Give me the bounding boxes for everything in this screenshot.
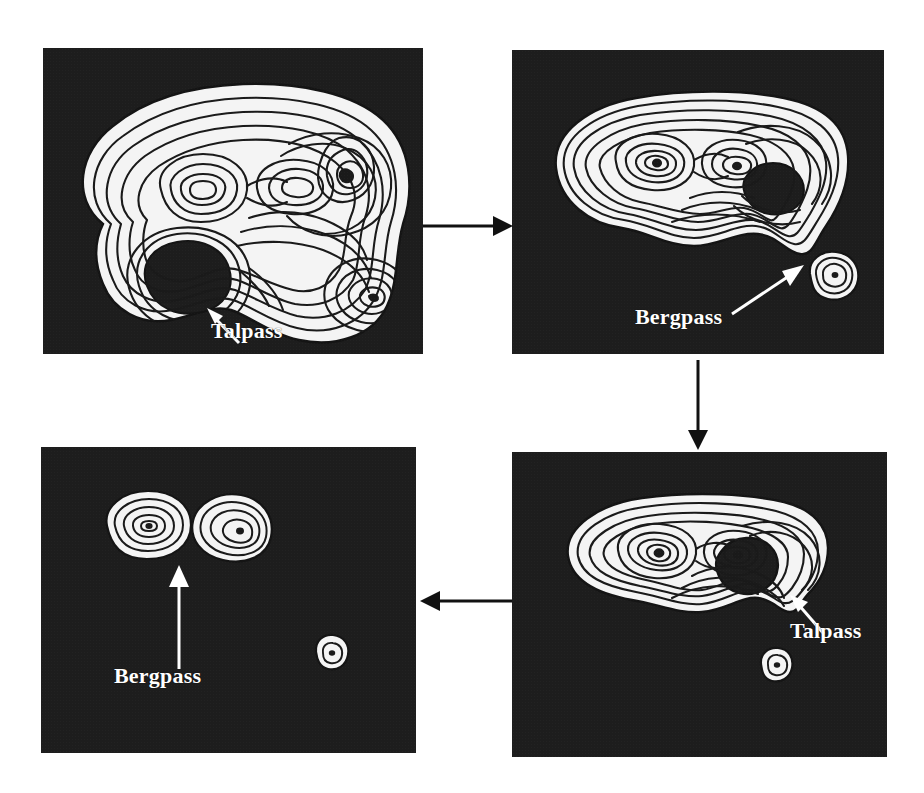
bergpass-pointer-2: [732, 265, 804, 314]
island-region-2: [810, 252, 858, 300]
summit-region-left-3: [106, 491, 191, 559]
contour-map-3: [41, 447, 416, 753]
figure-root: Talpass: [0, 0, 924, 793]
panel-top-right: Bergpass: [512, 50, 884, 354]
flow-arrow-right: [423, 213, 515, 239]
talpass-label-1: Talpass: [211, 318, 283, 344]
summit-region-small-3: [316, 635, 348, 670]
bergpass-label-2: Bergpass: [635, 304, 722, 330]
flow-arrow-down: [685, 360, 711, 452]
panel-top-left: Talpass: [43, 48, 423, 354]
island-region-4: [761, 648, 793, 682]
panel-bottom-right: Talpass: [512, 452, 887, 757]
summit-region-right-3: [192, 494, 272, 561]
arrow-right-icon: [423, 213, 515, 239]
flow-arrow-left: [418, 588, 512, 614]
talpass-label-4: Talpass: [790, 618, 862, 644]
bergpass-label-3: Bergpass: [114, 663, 201, 689]
contour-map-4: [512, 452, 887, 757]
panel-bottom-left: Bergpass: [41, 447, 416, 753]
arrow-down-icon: [685, 360, 711, 452]
bergpass-pointer-3: [169, 565, 189, 669]
arrow-left-icon: [418, 588, 512, 614]
contour-map-1: [43, 48, 423, 354]
